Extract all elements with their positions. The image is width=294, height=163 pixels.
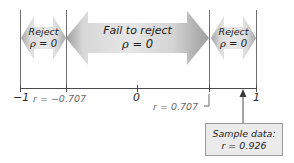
figure-canvas: Reject ρ = 0 Fail to reject ρ = 0 [0, 0, 294, 163]
region-label-line1: Reject [219, 27, 249, 38]
region-label-line2: ρ = 0 [220, 38, 247, 49]
callout-line1: Sample data: [212, 128, 275, 140]
region-label-line2: ρ = 0 [30, 38, 57, 49]
sample-data-callout: Sample data: r = 0.926 [205, 123, 283, 156]
region-label-line2: ρ = 0 [122, 38, 153, 51]
callout-line2: r = 0.926 [221, 140, 266, 152]
region-label-line1: Reject [29, 27, 59, 38]
